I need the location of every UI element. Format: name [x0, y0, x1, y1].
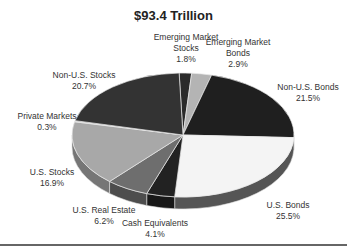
label-name: Non-U.S. Bonds — [277, 82, 338, 93]
label-us-bonds: U.S. Bonds 25.5% — [267, 200, 310, 222]
label-nonus-stocks: Non-U.S. Stocks 20.7% — [53, 70, 116, 92]
label-name: Emerging Market — [206, 37, 271, 48]
label-em-bonds: Emerging Market Bonds 2.9% — [206, 37, 271, 70]
label-name: Private Markets — [17, 111, 76, 122]
label-percent: 16.9% — [30, 178, 74, 189]
label-percent: 4.1% — [122, 229, 188, 240]
label-name-line2: Bonds — [206, 48, 271, 59]
label-name: U.S. Bonds — [267, 200, 310, 211]
label-private-markets: Private Markets 0.3% — [17, 111, 76, 133]
pie-slice-u-s-bonds — [175, 135, 294, 197]
label-us-stocks: U.S. Stocks 16.9% — [30, 167, 74, 189]
label-percent: 0.3% — [17, 122, 76, 133]
label-nonus-bonds: Non-U.S. Bonds 21.5% — [277, 82, 338, 104]
label-percent: 2.9% — [206, 59, 271, 70]
label-name: U.S. Stocks — [30, 167, 74, 178]
label-percent: 21.5% — [277, 93, 338, 104]
label-name: Non-U.S. Stocks — [53, 70, 116, 81]
label-percent: 25.5% — [267, 211, 310, 222]
label-name: U.S. Real Estate — [73, 205, 136, 216]
bottom-divider — [0, 244, 347, 246]
label-us-real-estate: U.S. Real Estate 6.2% — [73, 205, 136, 227]
label-percent: 6.2% — [73, 216, 136, 227]
label-percent: 20.7% — [53, 81, 116, 92]
